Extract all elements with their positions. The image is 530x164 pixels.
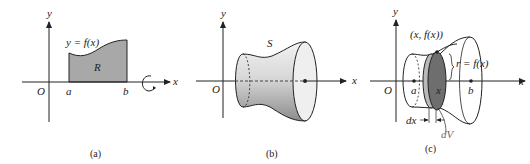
point-marker: [435, 50, 439, 54]
caption-a: (a): [90, 148, 101, 160]
region-label: R: [93, 61, 101, 73]
a-label: a: [66, 85, 72, 97]
dv-label: dV: [441, 128, 455, 140]
origin-label: O: [384, 84, 392, 96]
b-marker: [469, 79, 473, 83]
rotation-arrowhead-icon: [153, 86, 156, 90]
caption-c: (c): [425, 143, 436, 155]
caption-b: (b): [266, 148, 278, 160]
x-point-label: x: [435, 84, 441, 96]
x-axis-left-label: x: [351, 74, 357, 86]
y-axis-label: y: [392, 5, 398, 17]
curve-label: y = f(x): [65, 36, 99, 49]
origin-label: O: [212, 83, 220, 95]
disk-front: [428, 52, 446, 110]
dx-label: dx: [406, 114, 417, 126]
origin-label: O: [37, 85, 45, 97]
x-axis-label: x: [518, 75, 524, 87]
panel-c: y x x O a b x (x, f(x)) r = f(x) dx dV (…: [351, 5, 525, 155]
panel-b: y O S (b): [196, 7, 346, 160]
y-axis-label: y: [220, 7, 226, 19]
figure: y x O a b y = f(x) R (a) y O S (b): [0, 0, 530, 164]
radius-label: r = f(x): [456, 57, 489, 70]
solid-label: S: [267, 37, 273, 49]
x-axis-label: x: [172, 75, 178, 87]
a-marker: [412, 79, 416, 83]
panel-a: y x O a b y = f(x) R (a): [22, 7, 178, 160]
y-axis-label: y: [46, 7, 52, 19]
b-label: b: [123, 85, 129, 97]
radius-brace: [449, 54, 454, 80]
point-label: (x, f(x)): [410, 28, 443, 41]
a-label: a: [411, 84, 417, 96]
b-label: b: [468, 84, 474, 96]
